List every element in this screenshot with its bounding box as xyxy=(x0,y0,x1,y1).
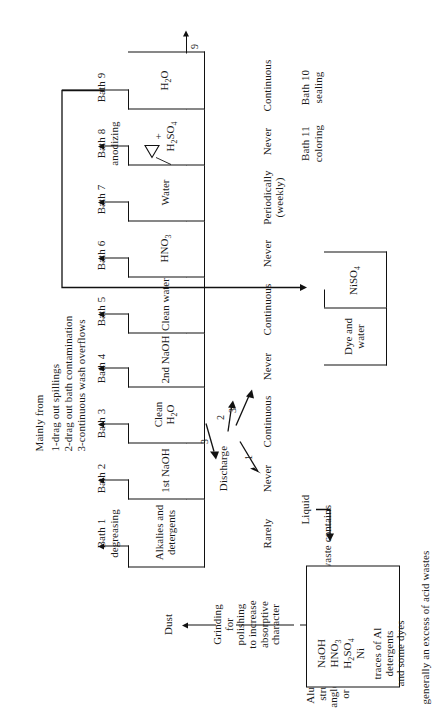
composite-traces: traces of Al detergents and some dyes xyxy=(372,595,407,711)
composite-chemical-3: Ni xyxy=(355,623,367,683)
composite-chemical-0: NaOH xyxy=(316,623,328,683)
footnote-label: generally an excess of acid wastes xyxy=(420,497,432,723)
